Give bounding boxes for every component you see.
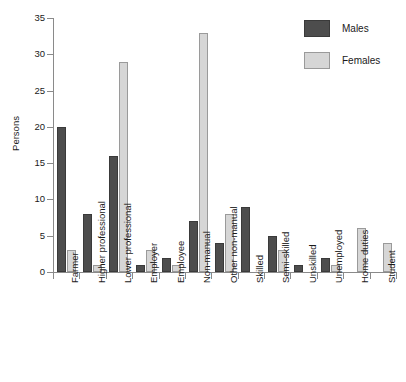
- y-axis-tick-label: 15: [34, 158, 45, 168]
- legend-item[interactable]: Females: [304, 52, 400, 74]
- bar-males[interactable]: [109, 156, 118, 272]
- legend-swatch-females-icon: [304, 52, 330, 69]
- y-axis-tick-label: 0: [40, 267, 45, 277]
- bar-group: [159, 18, 185, 272]
- legend: Males Females: [304, 20, 400, 84]
- x-axis-tick-label: Employee: [176, 241, 186, 283]
- x-axis-tick: [53, 272, 54, 279]
- bar-males[interactable]: [136, 265, 145, 272]
- y-axis-tick-label: 20: [34, 122, 45, 132]
- y-axis-tick-label: 35: [34, 13, 45, 23]
- x-axis-tick-label: Higher professional: [97, 201, 107, 283]
- bar-group: [132, 18, 158, 272]
- y-axis-tick-label: 25: [34, 86, 45, 96]
- y-axis-tick-label: 5: [40, 231, 45, 241]
- bar-males[interactable]: [215, 243, 224, 272]
- legend-swatch-males-icon: [304, 20, 330, 37]
- bar-males[interactable]: [241, 207, 250, 272]
- x-axis-tick-label: Unemployed: [334, 230, 344, 283]
- bar-males[interactable]: [321, 258, 330, 273]
- bar-group: [53, 18, 79, 272]
- bar-group: [238, 18, 264, 272]
- legend-label-males: Males: [342, 23, 369, 34]
- legend-item[interactable]: Males: [304, 20, 400, 42]
- x-axis-tick-label: Student: [387, 250, 397, 283]
- x-axis-tick-label: Non-manual: [202, 231, 212, 283]
- bar-males[interactable]: [162, 258, 171, 273]
- y-axis-tick-label: 30: [34, 49, 45, 59]
- y-axis-title: Persons: [10, 104, 21, 164]
- x-axis-tick-label: Skilled: [255, 255, 265, 283]
- x-axis-tick-label: Unskilled: [308, 244, 318, 283]
- x-axis-tick-label: Employer: [149, 243, 159, 283]
- x-axis-tick-label: Other non-manual: [229, 206, 239, 283]
- x-axis-tick-label: Lower professional: [123, 203, 133, 283]
- legend-label-females: Females: [342, 55, 380, 66]
- bar-males[interactable]: [189, 221, 198, 272]
- bar-males[interactable]: [294, 265, 303, 272]
- x-axis-tick-label: Farmer: [70, 252, 80, 283]
- y-axis-tick-label: 10: [34, 194, 45, 204]
- bar-males[interactable]: [83, 214, 92, 272]
- bar-chart: Persons 05101520253035 FarmerHigher prof…: [0, 0, 406, 382]
- bar-males[interactable]: [57, 127, 66, 272]
- bar-males[interactable]: [268, 236, 277, 272]
- x-axis-tick-label: Semi-skilled: [281, 232, 291, 283]
- x-axis-tick-label: Home duties: [360, 230, 370, 283]
